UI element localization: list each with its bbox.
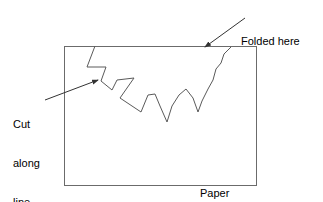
- cut-text: Cut: [13, 118, 40, 131]
- label-cut-along-line: Cut along line: [13, 92, 40, 202]
- folded-here-text: Folded here: [241, 35, 300, 48]
- paper-folding-diagram: Folded here Cut along line Paper: [0, 0, 323, 202]
- label-paper: Paper: [200, 161, 229, 202]
- paper-text: Paper: [200, 187, 229, 200]
- folded-here-arrow: [205, 18, 245, 47]
- along-text: along: [13, 157, 40, 170]
- line-text: line: [13, 196, 40, 202]
- label-folded-here: Folded here: [241, 9, 300, 74]
